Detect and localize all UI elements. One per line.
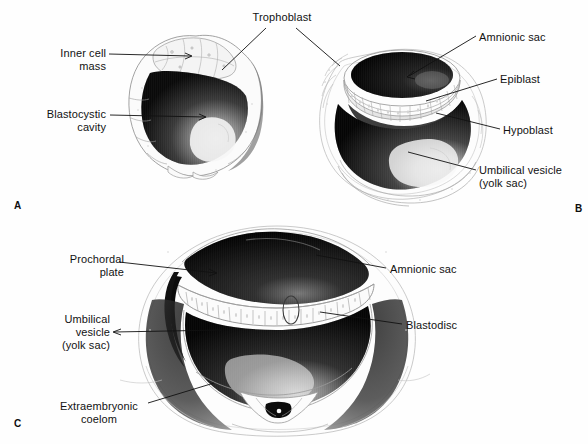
panel-letter-a: A [14, 200, 21, 211]
label-umbilical-vesicle-b: Umbilical vesicle (yolk sac) [479, 164, 584, 190]
leader-amnionic-sac-c [316, 255, 386, 268]
label-blastodisc: Blastodisc [406, 319, 486, 332]
panel-letter-c: C [14, 418, 21, 429]
leader-blastodisc [320, 312, 402, 324]
leader-epiblast [426, 79, 497, 101]
label-inner-cell-mass: Inner cell mass [44, 47, 106, 73]
leader-inner-cell-mass [109, 53, 192, 59]
label-extraembryonic-coelom: Extraembryonic coelom [52, 400, 146, 426]
leader-amnionic-sac-b [407, 36, 476, 79]
label-amnionic-sac-b: Amnionic sac [479, 31, 579, 44]
embryology-figure: Inner cell mass Trophoblast Blastocystic… [0, 0, 588, 444]
label-umbilical-vesicle-c: Umbilical vesicle (yolk sac) [42, 313, 110, 352]
label-hypoblast: Hypoblast [503, 124, 578, 137]
leader-umbilical-vesicle-b [408, 152, 476, 170]
panel-letter-b: B [575, 203, 582, 214]
leader-trophoblast-right [296, 28, 340, 66]
leader-trophoblast-left [222, 28, 266, 70]
label-trophoblast: Trophoblast [237, 11, 327, 24]
leader-prochordal-plate [119, 262, 217, 276]
leader-umbilical-vesicle-c [113, 329, 222, 335]
label-epiblast: Epiblast [500, 73, 570, 86]
leader-hypoblast [436, 113, 500, 129]
label-prochordal-plate: Prochordal plate [56, 253, 124, 279]
label-amnionic-sac-c: Amnionic sac [390, 263, 490, 276]
leader-extraembryonic-coelom [148, 383, 214, 403]
leader-blastocystic-cavity [110, 114, 206, 120]
label-blastocystic-cavity: Blastocystic cavity [30, 108, 106, 134]
